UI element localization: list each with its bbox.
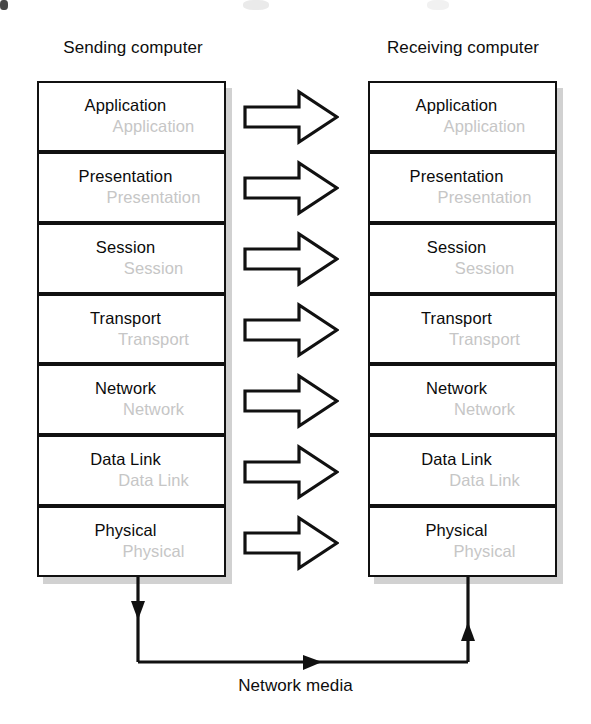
layer-label-ghost: Presentation bbox=[392, 188, 557, 207]
layer-label-ghost: Session bbox=[61, 259, 226, 278]
layer-label: Physical bbox=[37, 521, 218, 540]
layer-label-ghost: Network bbox=[61, 400, 226, 419]
layer-box-receiving-transport[interactable]: TransportTransport bbox=[368, 294, 557, 365]
layer-label: Transport bbox=[368, 309, 549, 328]
layer-label-ghost: Data Link bbox=[61, 471, 226, 490]
layer-label: Physical bbox=[368, 521, 549, 540]
layer-label-ghost: Network bbox=[392, 400, 557, 419]
layer-box-sending-session[interactable]: SessionSession bbox=[37, 223, 226, 294]
layer-box-receiving-data-link[interactable]: Data LinkData Link bbox=[368, 435, 557, 506]
layer-label: Network bbox=[37, 379, 218, 398]
layer-label-ghost: Presentation bbox=[61, 188, 226, 207]
layer-box-receiving-application[interactable]: ApplicationApplication bbox=[368, 81, 557, 152]
layer-label: Application bbox=[37, 96, 218, 115]
layer-box-receiving-presentation[interactable]: PresentationPresentation bbox=[368, 152, 557, 223]
layer-box-sending-application[interactable]: ApplicationApplication bbox=[37, 81, 226, 152]
scan-artifact-right bbox=[427, 0, 449, 10]
layer-label-ghost: Session bbox=[392, 259, 557, 278]
layer-label-ghost: Physical bbox=[61, 542, 226, 561]
layer-label: Transport bbox=[37, 309, 218, 328]
layer-label: Presentation bbox=[37, 167, 218, 186]
layer-label-ghost: Physical bbox=[392, 542, 557, 561]
layer-label-ghost: Data Link bbox=[392, 471, 557, 490]
peer-transfer-arrow-network bbox=[243, 373, 339, 429]
peer-transfer-arrow-session bbox=[243, 231, 339, 287]
scan-artifact-center bbox=[243, 0, 269, 10]
peer-transfer-arrow-presentation bbox=[243, 160, 339, 216]
receiving-computer-caption: Receiving computer bbox=[330, 38, 591, 58]
layer-box-sending-transport[interactable]: TransportTransport bbox=[37, 294, 226, 365]
layer-box-sending-network[interactable]: NetworkNetwork bbox=[37, 364, 226, 435]
layer-label: Session bbox=[368, 238, 549, 257]
peer-transfer-arrow-data-link bbox=[243, 444, 339, 500]
layer-label: Presentation bbox=[368, 167, 549, 186]
peer-transfer-arrow-application bbox=[243, 89, 339, 145]
layer-label: Network bbox=[368, 379, 549, 398]
scan-artifact-left bbox=[0, 0, 8, 10]
layer-label: Application bbox=[368, 96, 549, 115]
layer-box-sending-data-link[interactable]: Data LinkData Link bbox=[37, 435, 226, 506]
layer-box-receiving-network[interactable]: NetworkNetwork bbox=[368, 364, 557, 435]
layer-label-ghost: Application bbox=[61, 117, 226, 136]
peer-transfer-arrow-transport bbox=[243, 302, 339, 358]
layer-box-receiving-session[interactable]: SessionSession bbox=[368, 223, 557, 294]
layer-box-sending-presentation[interactable]: PresentationPresentation bbox=[37, 152, 226, 223]
layer-label-ghost: Transport bbox=[61, 330, 226, 349]
osi-layer-diagram: Sending computer Receiving computer Appl… bbox=[0, 0, 591, 724]
layer-label-ghost: Transport bbox=[392, 330, 557, 349]
layer-label-ghost: Application bbox=[392, 117, 557, 136]
network-media-label: Network media bbox=[0, 676, 591, 696]
sending-computer-caption: Sending computer bbox=[0, 38, 266, 58]
layer-label: Data Link bbox=[37, 450, 218, 469]
layer-label: Session bbox=[37, 238, 218, 257]
network-media-path bbox=[0, 560, 591, 680]
layer-label: Data Link bbox=[368, 450, 549, 469]
